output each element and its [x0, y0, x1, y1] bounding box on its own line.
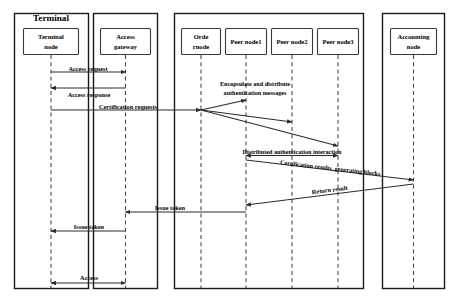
message-label-return-result: Return result: [311, 184, 349, 195]
message-label-distributed-authentication-interaction: Distributed authentication interaction: [243, 149, 342, 155]
message-label-issue-token-terminal: Issue token: [74, 223, 105, 230]
participant-label-terminal-node-line1: Terminal: [38, 33, 64, 40]
participant-label-accounting-node-line1: Accounting: [397, 33, 430, 40]
participant-label-accounting-node-line2: node: [407, 43, 421, 50]
message-issue-token-gateway[interactable]: Issue token: [126, 204, 247, 212]
message-label-issue-token-gateway: Issue token: [155, 204, 186, 211]
message-label-encapsulate-distribute-line1: Encapsulate and distribute: [220, 81, 290, 87]
message-distributed-authentication-interaction[interactable]: Distributed authentication interaction: [243, 149, 342, 156]
sequence-diagram-canvas: Terminal Terminal node Access gateway Or…: [0, 0, 459, 304]
participant-label-terminal-node-line2: node: [44, 43, 58, 50]
participant-label-access-gateway-line1: Access: [116, 33, 135, 40]
message-certification-requests[interactable]: Certification requests: [51, 103, 201, 111]
sequence-diagram: Terminal Terminal node Access gateway Or…: [0, 0, 459, 304]
participant-label-peer-node-2: Peer node2: [276, 38, 308, 45]
message-arrow-encapsulate-to-peer-1: [201, 100, 246, 110]
participant-label-peer-node-3: Peer node3: [322, 38, 354, 45]
participant-label-order-node-line1: Orde: [194, 33, 209, 40]
message-access-request[interactable]: Access request: [51, 65, 126, 73]
message-arrow-encapsulate-to-peer-3: [201, 110, 338, 146]
message-label-certification-requests: Certification requests: [99, 103, 158, 110]
group-label-terminal: Terminal: [33, 13, 69, 23]
message-issue-token-terminal[interactable]: Issue token: [51, 223, 126, 231]
message-label-access-request: Access request: [68, 65, 108, 72]
participant-label-access-gateway-line2: gateway: [114, 43, 138, 50]
message-label-certification-results: Certification results, generating blocks: [280, 159, 381, 176]
participant-label-order-node-line2: rnode: [193, 43, 210, 50]
message-label-access: Access: [80, 274, 98, 281]
message-return-result[interactable]: Return result: [246, 184, 414, 205]
participant-label-peer-node-1: Peer node1: [230, 38, 261, 45]
message-certification-results[interactable]: Certification results, generating blocks: [246, 159, 414, 180]
message-label-access-response: Access response: [68, 91, 111, 98]
message-encapsulate-distribute[interactable]: Encapsulate and distribute authenticatio…: [201, 81, 338, 146]
message-label-encapsulate-distribute-line2: authentication messages: [224, 90, 287, 96]
